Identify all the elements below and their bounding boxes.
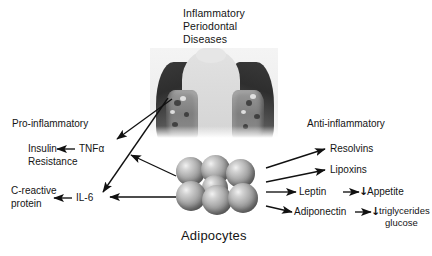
resistance-label: Resistance xyxy=(28,156,77,168)
arrow-tooth-to-il6 xyxy=(103,98,168,192)
arrow-adipocytes-to-lipoxins xyxy=(266,170,325,182)
tnfa-label: TNFα xyxy=(79,143,104,155)
anti-inflammatory-heading: Anti-inflammatory xyxy=(307,118,385,130)
leptin-label: Leptin xyxy=(299,186,326,198)
insulin-label: Insulin xyxy=(28,143,57,155)
figure-canvas: Inflammatory Periodontal Diseases Adipoc… xyxy=(0,0,432,256)
pro-inflammatory-heading: Pro-inflammatory xyxy=(12,118,88,130)
c-reactive-label: C-reactive xyxy=(11,185,57,197)
resolvins-label: Resolvins xyxy=(330,143,373,155)
arrow-adipocytes-to-tnfa xyxy=(131,155,176,176)
lipoxins-label: Lipoxins xyxy=(330,164,367,176)
glucose-label: glucose xyxy=(385,217,418,228)
appetite-label: Appetite xyxy=(367,186,404,198)
arrow-adipocytes-to-resolvins xyxy=(266,149,325,168)
il6-label: IL-6 xyxy=(76,192,93,204)
arrow-adipocytes-to-adiponectin xyxy=(266,206,292,212)
adiponectin-label: Adiponectin xyxy=(294,206,346,218)
protein-label: protein xyxy=(11,198,42,210)
triglycerides-label: triglycerides xyxy=(379,205,430,216)
